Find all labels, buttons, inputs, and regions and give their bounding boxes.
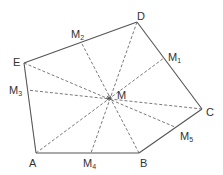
vertex-label-D: D	[137, 10, 145, 22]
point-labels: ABCDEMM1M2M3M4M5	[9, 10, 214, 170]
edge-CD	[137, 22, 202, 109]
pentagon-edges	[24, 22, 202, 153]
midpoint-label-M5: M5	[180, 130, 193, 143]
median-A-M1	[36, 58, 164, 153]
pentagon-medians-diagram: ABCDEMM1M2M3M4M5	[0, 0, 223, 175]
median-D-M4	[91, 22, 137, 153]
vertex-label-A: A	[29, 157, 37, 169]
median-E-M5	[24, 63, 175, 127]
center-label-M: M	[117, 89, 126, 101]
midpoint-label-M3: M3	[9, 84, 22, 97]
vertex-label-B: B	[140, 157, 147, 169]
edge-EA	[24, 63, 36, 153]
dashed-medians	[24, 22, 202, 153]
center-point-M	[106, 95, 112, 101]
vertex-label-C: C	[206, 106, 214, 118]
edge-DE	[24, 22, 137, 63]
midpoint-label-M4: M4	[83, 157, 96, 170]
midpoint-label-M2: M2	[71, 28, 84, 41]
vertex-label-E: E	[13, 56, 20, 68]
midpoint-label-M1: M1	[168, 51, 181, 64]
